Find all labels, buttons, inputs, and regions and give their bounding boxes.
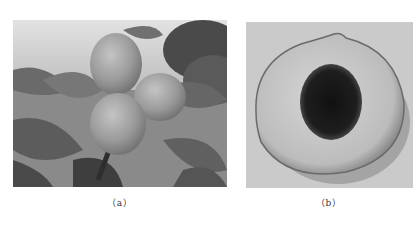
peach-branch-image: [13, 20, 227, 187]
halved-peach-image: [246, 22, 413, 188]
photo-halved-peach: [246, 22, 413, 188]
photo-peaches-on-branch: [13, 20, 227, 187]
caption-b: （b）: [309, 196, 349, 209]
caption-a: （a）: [100, 196, 140, 209]
